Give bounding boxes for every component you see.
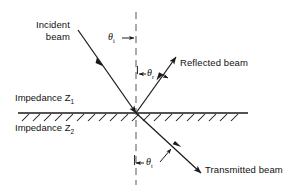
incident-beam-label: Incident beam [8, 19, 70, 42]
impedance-upper-text: Impedance Z [15, 92, 70, 103]
incident-beam-label-line2: beam [46, 31, 70, 42]
transmitted-beam-midarrow [173, 141, 182, 147]
theta-transmitted-subscript: t [151, 162, 153, 169]
incident-beam-midarrow [96, 57, 104, 66]
interface-hatching [22, 114, 238, 121]
impedance-upper-subscript: 1 [70, 98, 74, 105]
theta-incident-subscript: i [113, 37, 115, 44]
reflected-beam-ray [136, 57, 176, 113]
theta-transmitted-label: θt [146, 156, 153, 169]
impedance-lower-text: Impedance Z [15, 122, 70, 133]
reflected-beam-label: Reflected beam [180, 57, 248, 69]
theta-reflected-subscript: r [152, 73, 154, 80]
theta-incident-label: θi [108, 31, 115, 44]
impedance-lower-label: Impedance Z2 [15, 122, 74, 135]
incident-beam-ray [78, 30, 136, 113]
figure-canvas: Incident beam Reflected beam Transmitted… [0, 0, 305, 196]
incident-beam-label-line1: Incident [36, 19, 70, 30]
impedance-upper-label: Impedance Z1 [15, 92, 74, 105]
impedance-lower-subscript: 2 [70, 128, 74, 135]
transmitted-beam-label: Transmitted beam [205, 164, 283, 176]
theta-reflected-label: θr [147, 67, 154, 80]
